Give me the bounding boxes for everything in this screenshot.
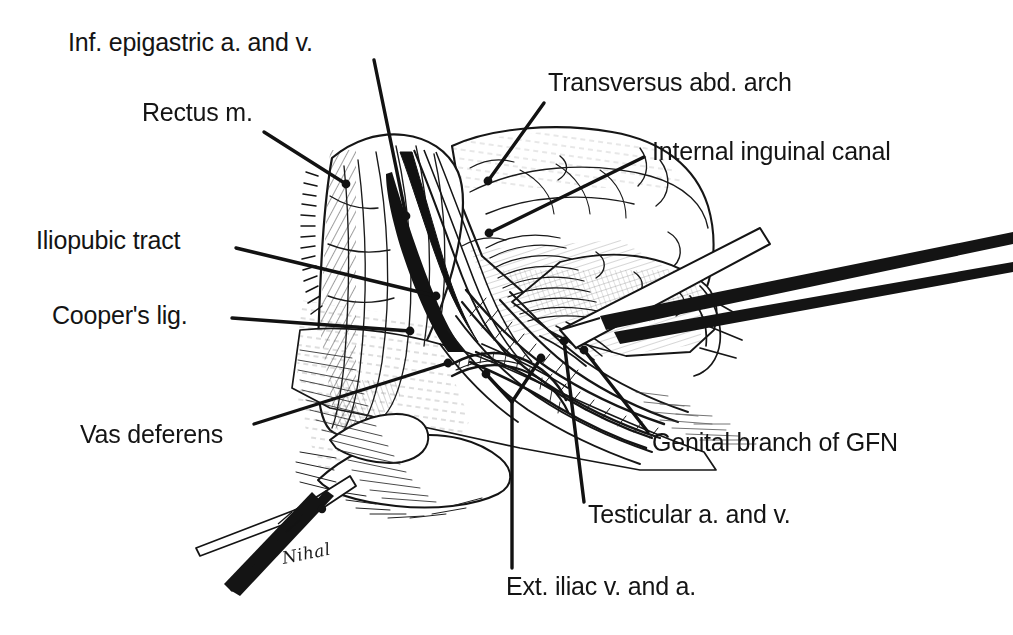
tip-inf-epigastric [402,212,411,221]
tip-rectus [342,180,351,189]
forceps-instrument [196,476,356,596]
label-vas-deferens: Vas deferens [80,420,223,448]
tip-genital-branch [580,346,589,355]
label-iliopubic-tract: Iliopubic tract [36,226,180,254]
label-coopers-lig: Cooper's lig. [52,301,188,329]
label-ext-iliac: Ext. iliac v. and a. [506,572,696,600]
label-transversus-arch: Transversus abd. arch [548,68,792,96]
label-genital-branch-gfn: Genital branch of GFN [652,428,898,456]
tip-ext-iliac-right [537,354,546,363]
tip-iliopubic-tract [432,292,441,301]
tip-coopers-lig [406,327,415,336]
label-internal-inguinal-canal: Internal inguinal canal [652,137,891,165]
label-rectus: Rectus m. [142,98,253,126]
label-testicular: Testicular a. and v. [588,500,791,528]
cut-edge-hatching [301,172,322,314]
tip-internal-inguinal-canal [485,229,494,238]
tip-transversus-arch [484,177,493,186]
label-inf-epigastric: Inf. epigastric a. and v. [68,28,313,56]
tip-testicular [560,337,569,346]
anatomical-figure: Inf. epigastric a. and v. Rectus m. Tran… [0,0,1013,635]
tip-vas-deferens [444,359,453,368]
tip-ext-iliac-left [482,370,491,379]
